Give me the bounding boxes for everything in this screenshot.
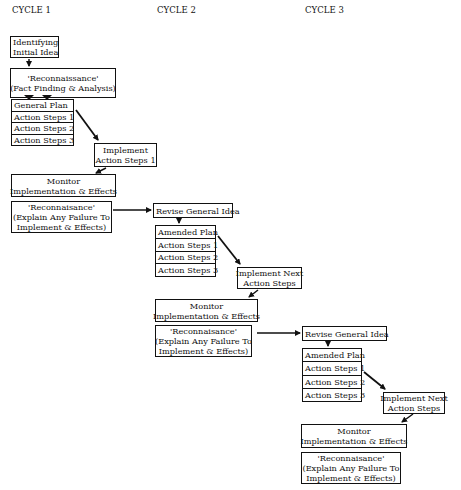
box-line: (Explain Any Failure To bbox=[155, 336, 252, 346]
action-step-2: Action Steps 2 bbox=[156, 251, 215, 264]
box-line: Implementation & Effects bbox=[300, 436, 407, 446]
arrow-diagonal-icon bbox=[402, 414, 413, 422]
implement-next-action-steps-box: Implement Next Action Steps bbox=[383, 392, 445, 414]
implement-action-steps-box: Implement Action Steps 1 bbox=[94, 143, 157, 167]
action-step-3: Action Steps 3 bbox=[156, 263, 215, 276]
box-line: (Fact Finding & Analysis) bbox=[10, 83, 116, 93]
action-step-3: Action Steps 3 bbox=[12, 134, 73, 146]
cycle-3-title: CYCLE 3 bbox=[305, 5, 344, 15]
action-step-1: Action Steps 1 bbox=[12, 111, 73, 123]
box-line: Monitor bbox=[47, 176, 80, 186]
action-step-2: Action Steps 2 bbox=[303, 375, 361, 388]
box-line: 'Reconnaissance' bbox=[27, 73, 98, 83]
action-step-3: Action Steps 3 bbox=[303, 388, 361, 401]
plan-header: General Plan bbox=[12, 100, 73, 111]
box-line: (Explain Any Failure To bbox=[13, 212, 110, 222]
implement-next-action-steps-box: Implement Next Action Steps bbox=[237, 267, 302, 289]
box-line: 'Reconnaisance' bbox=[318, 453, 385, 463]
box-line: Action Steps 1 bbox=[95, 155, 155, 165]
box-line: Implement Next bbox=[236, 268, 303, 278]
arrow-diagonal-icon bbox=[249, 290, 258, 297]
box-line: Revise General Idea bbox=[305, 329, 389, 339]
box-line: Identifying bbox=[13, 37, 58, 47]
box-line: Implement & Effects) bbox=[159, 346, 248, 356]
action-step-1: Action Steps 1 bbox=[156, 238, 215, 251]
box-line: Implement & Effects) bbox=[306, 473, 395, 483]
box-line: Initial Idea bbox=[13, 47, 58, 57]
box-line: Implement & Effects) bbox=[17, 222, 106, 232]
arrow-diagonal-icon bbox=[96, 168, 106, 173]
cycle-2-title: CYCLE 2 bbox=[157, 5, 196, 15]
box-line: Monitor bbox=[190, 301, 223, 311]
amended-plan-stack: Amended Plan Action Steps 1 Action Steps… bbox=[155, 225, 216, 277]
plan-header: Amended Plan bbox=[303, 349, 361, 361]
monitor-box: Monitor Implementation & Effects bbox=[155, 299, 258, 322]
box-line: Revise General Idea bbox=[156, 206, 240, 216]
amended-plan-stack: Amended Plan Action Steps 1 Action Steps… bbox=[302, 348, 362, 402]
reconnaisance-explain-box: 'Reconnaisance' (Explain Any Failure To … bbox=[301, 452, 401, 484]
reconnaisance-explain-box: 'Reconnaisance' (Explain Any Failure To … bbox=[11, 201, 112, 233]
arrow-diagonal-icon bbox=[76, 110, 98, 140]
box-line: Implementation & Effects bbox=[153, 311, 260, 321]
box-line: Action Steps bbox=[388, 403, 440, 413]
arrow-diagonal-icon bbox=[218, 236, 240, 264]
general-plan-stack: General Plan Action Steps 1 Action Steps… bbox=[11, 99, 74, 146]
plan-header: Amended Plan bbox=[156, 226, 215, 238]
arrow-diagonal-icon bbox=[364, 372, 385, 389]
box-line: (Explain Any Failure To bbox=[302, 463, 399, 473]
revise-general-idea-box: Revise General Idea bbox=[153, 203, 233, 218]
box-line: 'Reconnaisance' bbox=[170, 326, 237, 336]
reconnaisance-explain-box: 'Reconnaisance' (Explain Any Failure To … bbox=[155, 325, 252, 357]
box-line: 'Reconnaisance' bbox=[28, 202, 95, 212]
box-line: Monitor bbox=[337, 426, 370, 436]
monitor-box: Monitor Implementation & Effects bbox=[11, 174, 116, 197]
monitor-box: Monitor Implementation & Effects bbox=[301, 424, 407, 448]
cycle-1-title: CYCLE 1 bbox=[12, 5, 51, 15]
action-step-2: Action Steps 2 bbox=[12, 122, 73, 134]
revise-general-idea-box: Revise General Idea bbox=[302, 326, 387, 341]
box-line: Implement bbox=[103, 145, 148, 155]
action-step-1: Action Steps 1 bbox=[303, 361, 361, 374]
reconnaissance-fact-finding-box: 'Reconnaissance' (Fact Finding & Analysi… bbox=[10, 68, 116, 98]
box-line: Action Steps bbox=[243, 278, 295, 288]
identifying-initial-idea-box: Identifying Initial Idea bbox=[10, 36, 59, 58]
box-line: Implement Next bbox=[380, 393, 447, 403]
box-line: Implementation & Effects bbox=[10, 186, 117, 196]
